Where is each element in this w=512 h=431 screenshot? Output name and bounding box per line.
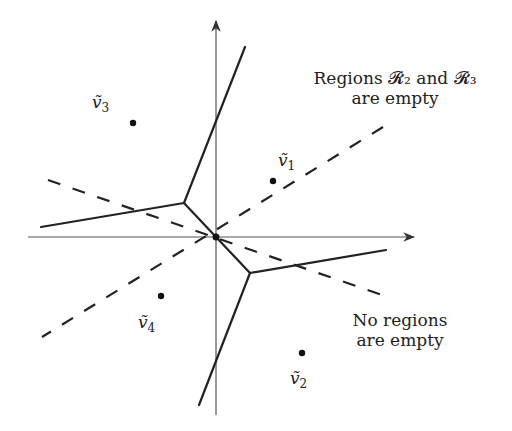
annotation-line-2: are empty	[340, 330, 460, 350]
boundary-segment	[216, 237, 250, 273]
label-v3: ṽ3	[92, 92, 109, 115]
diagram-svg	[0, 0, 512, 431]
boundary-segment	[41, 203, 184, 227]
boundary-segment	[199, 273, 250, 405]
label-v1: ṽ1	[278, 150, 295, 173]
point-v1	[270, 178, 276, 184]
label-v4: ṽ4	[138, 312, 155, 335]
diagram-canvas: Regions 𝓡₂ and 𝓡₃ are empty No regions a…	[0, 0, 512, 431]
annotation-line-2: are empty	[290, 88, 500, 108]
point-v3	[130, 120, 136, 126]
annotation-line-1: Regions 𝓡₂ and 𝓡₃	[290, 68, 500, 88]
annotation-regions-empty: Regions 𝓡₂ and 𝓡₃ are empty	[290, 68, 500, 108]
annotation-no-regions-empty: No regions are empty	[340, 310, 460, 350]
origin-point	[213, 234, 220, 241]
annotation-line-1: No regions	[340, 310, 460, 330]
point-v4	[158, 293, 164, 299]
dashed-bisectors	[42, 127, 385, 337]
boundary-segment	[250, 250, 386, 273]
point-v2	[299, 350, 305, 356]
label-v2: ṽ2	[290, 368, 307, 391]
boundary-segment	[184, 47, 245, 203]
